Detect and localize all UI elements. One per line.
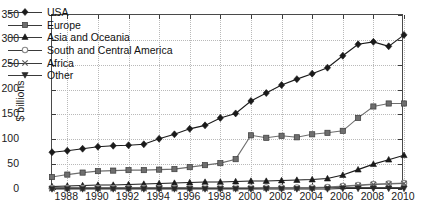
- legend-item-other[interactable]: Other: [8, 69, 173, 82]
- triangle-down-marker-icon: [19, 69, 31, 81]
- square-marker: [386, 101, 391, 106]
- diamond-marker: [95, 143, 101, 150]
- x-tick-label: 2010: [391, 191, 414, 202]
- legend-label: Europe: [42, 19, 81, 31]
- square-marker: [172, 167, 177, 172]
- diamond-marker: [217, 114, 223, 121]
- x-tick-label: 2008: [361, 191, 384, 202]
- diamond-marker: [340, 52, 346, 59]
- x-tick-label: 1992: [116, 191, 139, 202]
- x-tick-label: 2006: [330, 191, 353, 202]
- square-marker: [187, 165, 192, 170]
- square-marker: [126, 168, 131, 173]
- x-tick-label: 1994: [146, 191, 169, 202]
- square-marker: [325, 130, 330, 135]
- square-marker: [202, 163, 207, 168]
- square-marker: [95, 169, 100, 174]
- square-marker: [233, 157, 238, 162]
- diamond-marker: [324, 64, 330, 71]
- square-marker: [49, 174, 54, 179]
- diamond-marker: [202, 122, 208, 129]
- triangle-down-marker-icon: [8, 69, 42, 81]
- diamond-marker: [64, 147, 70, 154]
- legend-item-africa[interactable]: Africa: [8, 56, 173, 69]
- x-tick-label: 1996: [177, 191, 200, 202]
- x-marker-icon: [19, 57, 31, 69]
- square-marker: [80, 170, 85, 175]
- legend-item-usa[interactable]: USA: [8, 6, 173, 19]
- square-marker: [157, 167, 162, 172]
- diamond-marker: [370, 38, 376, 45]
- legend-item-europe[interactable]: Europe: [8, 19, 173, 32]
- diamond-marker: [22, 9, 28, 16]
- series-line: [52, 103, 404, 177]
- diamond-marker-icon: [8, 6, 42, 18]
- triangle-up-marker: [401, 152, 407, 158]
- legend-label: South and Central America: [42, 44, 173, 56]
- triangle-up-marker-icon: [8, 31, 42, 43]
- y-tick-label: 0: [0, 183, 19, 194]
- diamond-marker: [80, 145, 86, 152]
- x-tick-label: 2002: [269, 191, 292, 202]
- diamond-marker: [110, 142, 116, 149]
- square-marker: [22, 22, 27, 27]
- diamond-marker: [355, 41, 361, 48]
- diamond-marker: [294, 76, 300, 83]
- triangle-down-marker: [22, 73, 28, 79]
- y-tick-label: 100: [0, 133, 19, 144]
- legend-label: Other: [42, 69, 73, 81]
- x-tick-label: 1988: [55, 191, 78, 202]
- circle-open-marker-icon: [8, 44, 42, 56]
- diamond-marker: [278, 82, 284, 89]
- diamond-marker: [49, 149, 55, 156]
- square-marker: [279, 133, 284, 138]
- diamond-marker: [171, 131, 177, 138]
- x-tick-label: 1990: [85, 191, 108, 202]
- triangle-up-marker: [22, 34, 28, 40]
- square-marker: [248, 133, 253, 138]
- square-marker: [371, 104, 376, 109]
- legend-item-asia-and-oceania[interactable]: Asia and Oceania: [8, 31, 173, 44]
- diamond-marker: [386, 43, 392, 50]
- diamond-marker-icon: [19, 6, 31, 18]
- x-tick-label: 2000: [238, 191, 261, 202]
- series-line: [52, 189, 404, 190]
- x-marker: [22, 60, 27, 65]
- circle-open-marker-icon: [19, 44, 31, 56]
- square-marker-icon: [8, 19, 42, 31]
- diamond-marker: [401, 31, 407, 38]
- triangle-up-marker-icon: [19, 31, 31, 43]
- square-marker: [141, 168, 146, 173]
- diamond-marker: [187, 125, 193, 132]
- square-marker: [65, 172, 70, 177]
- square-marker: [264, 135, 269, 140]
- square-marker: [218, 161, 223, 166]
- diamond-marker: [309, 70, 315, 77]
- square-marker: [340, 128, 345, 133]
- y-tick-label: 200: [0, 83, 19, 94]
- series-europe: [49, 101, 406, 180]
- square-marker: [310, 132, 315, 137]
- y-tick-mark: [398, 189, 402, 190]
- legend-label: USA: [42, 6, 69, 18]
- x-tick-mark: [404, 15, 405, 19]
- y-tick-label: 50: [0, 158, 19, 169]
- diamond-marker: [156, 135, 162, 142]
- x-tick-label: 2004: [299, 191, 322, 202]
- legend-label: Africa: [42, 57, 74, 69]
- diamond-marker: [263, 90, 269, 97]
- y-tick-label: 150: [0, 108, 19, 119]
- line-chart: $ billions 050100150200250300350 1988199…: [0, 0, 425, 218]
- square-marker: [355, 115, 360, 120]
- square-marker: [294, 135, 299, 140]
- square-marker: [111, 168, 116, 173]
- square-marker: [401, 101, 406, 106]
- diamond-marker: [125, 142, 131, 149]
- legend-label: Asia and Oceania: [42, 31, 130, 43]
- legend-item-south-and-central-america[interactable]: South and Central America: [8, 44, 173, 57]
- x-marker-icon: [8, 57, 42, 69]
- x-tick-label: 1998: [208, 191, 231, 202]
- square-marker-icon: [19, 19, 31, 31]
- diamond-marker: [141, 141, 147, 148]
- circle-open-marker: [22, 47, 27, 52]
